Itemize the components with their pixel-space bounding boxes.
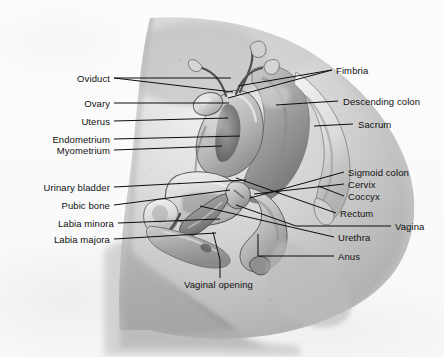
label-myometrium: Myometrium: [57, 146, 110, 156]
label-vaginal-opening: Vaginal opening: [184, 280, 253, 290]
label-sacrum: Sacrum: [358, 120, 391, 130]
label-sigmoid-colon: Sigmoid colon: [348, 168, 409, 178]
label-urethra: Urethra: [338, 233, 370, 243]
label-rectum: Rectum: [340, 209, 373, 219]
label-descending-colon: Descending colon: [343, 97, 420, 107]
label-endometrium: Endometrium: [52, 135, 110, 145]
organ-cervix: [226, 182, 251, 209]
label-uterus: Uterus: [81, 117, 110, 127]
label-urinary-bladder: Urinary bladder: [44, 183, 110, 193]
label-anus: Anus: [338, 252, 360, 262]
label-ovary: Ovary: [84, 99, 110, 109]
label-labia-minora: Labia minora: [58, 219, 114, 229]
label-pubic-bone: Pubic bone: [61, 201, 110, 211]
figure-canvas: Oviduct Ovary Uterus Endometrium Myometr…: [0, 0, 444, 357]
label-vagina: Vagina: [395, 222, 424, 232]
anatomy-illustration: [0, 0, 444, 357]
label-fimbria: Fimbria: [336, 66, 368, 76]
label-coccyx: Coccyx: [348, 192, 380, 202]
label-oviduct: Oviduct: [77, 74, 110, 84]
label-labia-majora: Labia majora: [54, 235, 110, 245]
label-cervix: Cervix: [348, 180, 376, 190]
